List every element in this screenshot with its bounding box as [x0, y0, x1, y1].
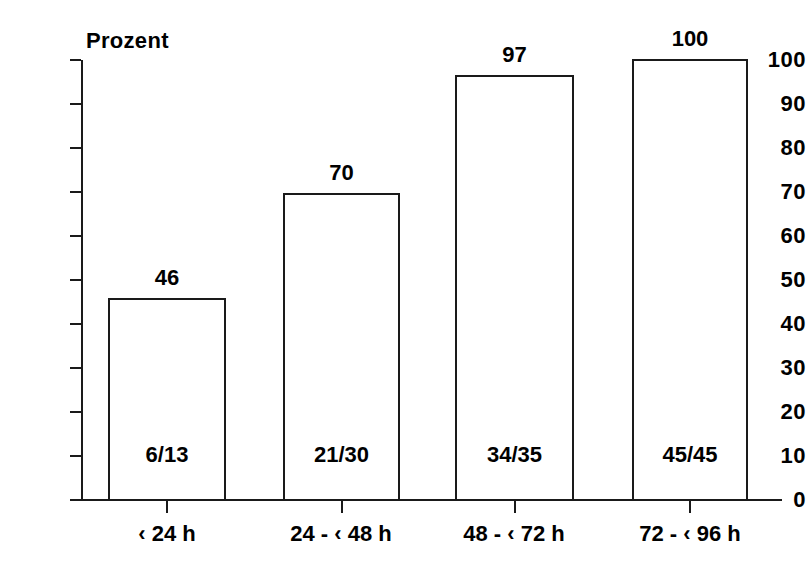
y-axis-title: Prozent	[86, 28, 169, 54]
bar-value-label-4: 100	[632, 28, 748, 50]
y-tick-label-100: 100	[744, 49, 806, 71]
x-tick-mark-2	[341, 501, 343, 513]
y-tick-label-30: 30	[744, 357, 806, 379]
y-tick-mark-40	[70, 323, 81, 325]
y-tick-mark-90	[70, 103, 81, 105]
y-tick-label-0: 0	[744, 489, 806, 511]
x-category-label-2: 24 - ‹ 48 h	[251, 523, 431, 545]
y-tick-label-60: 60	[744, 225, 806, 247]
y-tick-label-80: 80	[744, 137, 806, 159]
bar-fraction-label-3: 34/35	[455, 444, 574, 466]
bar-chart-figure: Prozent 100 90 80 70 60 50 40 30 20 10 0…	[0, 0, 806, 561]
y-tick-label-10: 10	[744, 445, 806, 467]
y-tick-label-70: 70	[744, 181, 806, 203]
y-tick-mark-30	[70, 367, 81, 369]
x-category-label-4: 72 - ‹ 96 h	[600, 523, 780, 545]
bar-fraction-label-4: 45/45	[632, 444, 748, 466]
bar-value-label-3: 97	[455, 44, 574, 66]
x-tick-mark-3	[514, 501, 516, 513]
y-tick-mark-50	[70, 279, 81, 281]
y-tick-label-20: 20	[744, 401, 806, 423]
y-axis-line	[81, 60, 83, 501]
bar-rect-4[interactable]	[632, 59, 748, 501]
bar-value-label-1: 46	[108, 267, 226, 289]
y-tick-mark-60	[70, 235, 81, 237]
bar-rect-3[interactable]	[455, 75, 574, 501]
y-tick-label-50: 50	[744, 269, 806, 291]
y-tick-mark-70	[70, 191, 81, 193]
bar-rect-1[interactable]	[108, 298, 226, 501]
y-tick-label-90: 90	[744, 93, 806, 115]
y-tick-mark-80	[70, 147, 81, 149]
x-tick-mark-1	[166, 501, 168, 513]
y-tick-mark-20	[70, 411, 81, 413]
bar-fraction-label-1: 6/13	[108, 444, 226, 466]
bar-value-label-2: 70	[283, 162, 400, 184]
y-tick-mark-100	[70, 59, 81, 61]
x-tick-mark-4	[689, 501, 691, 513]
x-category-label-3: 48 - ‹ 72 h	[424, 523, 604, 545]
y-tick-mark-0	[70, 499, 81, 501]
x-category-label-1: ‹ 24 h	[88, 523, 246, 545]
y-tick-mark-10	[70, 455, 81, 457]
bar-fraction-label-2: 21/30	[283, 444, 400, 466]
y-tick-label-40: 40	[744, 313, 806, 335]
